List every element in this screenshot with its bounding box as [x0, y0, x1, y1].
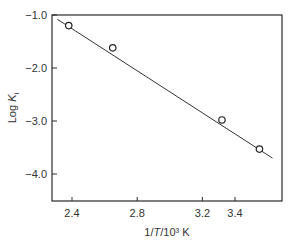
x-axis-ticks: 2.42.83.23.4 [64, 197, 242, 219]
log-ki-vs-inverse-temperature-chart: 2.42.83.23.4 −1.0−2.0−3.0−4.0 1/T/10³ K … [0, 0, 289, 240]
plot-frame [52, 15, 282, 201]
data-point-marker [219, 117, 225, 123]
y-tick-label: −3.0 [25, 115, 47, 127]
data-point-marker [110, 45, 116, 51]
data-point-marker [256, 146, 262, 152]
y-tick-label: −2.0 [25, 62, 47, 74]
regression-line [57, 19, 272, 158]
data-point-marker [66, 22, 72, 28]
y-axis-title: Log Ki [6, 93, 21, 124]
x-axis-title: 1/T/10³ K [144, 226, 190, 238]
x-tick-label: 3.4 [227, 207, 242, 219]
x-tick-label: 3.2 [195, 207, 210, 219]
x-tick-label: 2.8 [130, 207, 145, 219]
x-tick-label: 2.4 [64, 207, 79, 219]
y-tick-label: −1.0 [25, 9, 47, 21]
y-tick-label: −4.0 [25, 168, 47, 180]
